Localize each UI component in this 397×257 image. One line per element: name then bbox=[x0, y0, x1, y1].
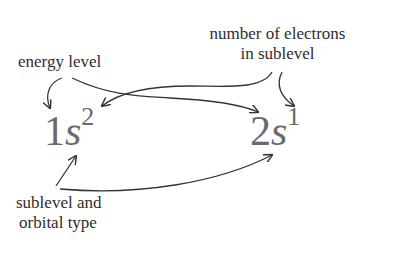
arrow-energy-to-2 bbox=[72, 78, 258, 112]
arrow-electrons-to-sup2 bbox=[102, 72, 272, 106]
arrow-electrons-to-sup1 bbox=[279, 72, 294, 106]
arrows bbox=[0, 0, 397, 257]
arrow-sublevel-to-s2 bbox=[60, 155, 272, 191]
arrow-sublevel-to-s1 bbox=[56, 156, 76, 186]
arrow-energy-to-1 bbox=[48, 78, 62, 108]
